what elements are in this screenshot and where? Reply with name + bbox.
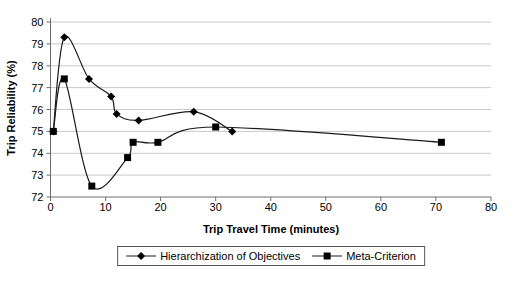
x-tick-label-60: 60	[375, 201, 387, 213]
y-axis-title: Trip Reliability (%)	[5, 28, 17, 188]
x-tick-label-50: 50	[320, 201, 332, 213]
marker-square-meta-criterion-2	[88, 183, 95, 190]
x-tick-label-80: 80	[485, 201, 497, 213]
legend-item-meta-criterion: Meta-Criterion	[312, 250, 416, 262]
y-tick-label-74: 74	[31, 147, 43, 159]
marker-square-meta-criterion-7	[438, 139, 445, 146]
x-tick-label-10: 10	[99, 201, 111, 213]
y-tick-label-73: 73	[31, 169, 43, 181]
x-tick-label-70: 70	[430, 201, 442, 213]
marker-diamond-hierarchization-of-objectives-6	[190, 108, 198, 116]
marker-square-meta-criterion-4	[130, 139, 137, 146]
marker-square-meta-criterion-1	[61, 75, 68, 82]
x-tick-label-20: 20	[154, 201, 166, 213]
y-tick-label-72: 72	[31, 191, 43, 203]
marker-diamond-hierarchization-of-objectives-7	[228, 127, 236, 135]
y-tick-label-75: 75	[31, 125, 43, 137]
y-tick-label-77: 77	[31, 82, 43, 94]
x-tick-label-40: 40	[265, 201, 277, 213]
marker-square-meta-criterion-5	[154, 139, 161, 146]
marker-diamond-hierarchization-of-objectives-1	[60, 33, 68, 41]
marker-square-meta-criterion-0	[50, 128, 57, 135]
legend-label-hierarchization: Hierarchization of Objectives	[160, 250, 300, 262]
x-tick-label-30: 30	[210, 201, 222, 213]
legend-item-hierarchization-of-objectives: Hierarchization of Objectives	[126, 250, 300, 262]
x-axis-title: Trip Travel Time (minutes)	[203, 223, 339, 235]
square-marker-icon	[312, 251, 342, 261]
chart-figure: 72737475767778798001020304050607080 Trip…	[0, 0, 513, 282]
legend-label-meta-criterion: Meta-Criterion	[346, 250, 416, 262]
diamond-marker-icon	[126, 251, 156, 261]
x-tick-label-0: 0	[47, 201, 53, 213]
y-tick-label-76: 76	[31, 104, 43, 116]
marker-square-meta-criterion-6	[212, 124, 219, 131]
series-line-hierarchization-of-objectives	[53, 36, 232, 131]
y-tick-label-79: 79	[31, 38, 43, 50]
chart-svg: 72737475767778798001020304050607080	[0, 0, 513, 282]
y-tick-label-80: 80	[31, 16, 43, 28]
y-tick-label-78: 78	[31, 60, 43, 72]
marker-diamond-hierarchization-of-objectives-5	[135, 116, 143, 124]
legend: Hierarchization of Objectives Meta-Crite…	[117, 246, 425, 266]
marker-square-meta-criterion-3	[124, 154, 131, 161]
